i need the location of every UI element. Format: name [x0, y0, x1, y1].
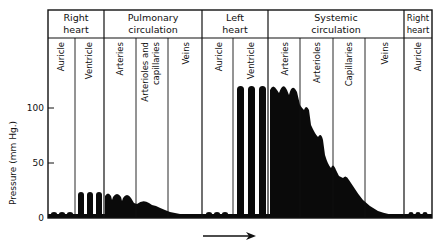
- flow-arrow-icon: [203, 232, 256, 240]
- segment-label-pulmonary-arteries: Arteries: [115, 41, 125, 75]
- segment-label-systemic-arteries: Arteries: [280, 41, 290, 75]
- y-tick-50: 50: [33, 158, 45, 168]
- blood-pressure-chart: Pressure (mm Hg.) 100 50 0: [0, 0, 444, 250]
- group-label-right-heart-end: Right: [407, 13, 430, 23]
- segment-label-left-auricle: Auricle: [214, 42, 224, 71]
- group-label-right-heart: Right: [63, 12, 88, 23]
- group-label-right-heart-2: heart: [63, 24, 89, 35]
- group-label-left-heart: Left: [226, 12, 244, 23]
- segment-label-right-auricle: Auricle: [56, 42, 66, 71]
- y-axis: 100 50 0: [27, 103, 54, 223]
- group-label-pulmonary: Pulmonary: [128, 12, 179, 23]
- segment-label-pulmonary-veins: Veins: [181, 41, 191, 64]
- segment-label-pulmonary-arterioles: Arterioles and: [140, 42, 150, 102]
- segment-label-systemic-arterioles: Arterioles: [312, 41, 322, 83]
- y-axis-label: Pressure (mm Hg.): [8, 121, 18, 205]
- y-tick-0: 0: [38, 213, 44, 223]
- segment-label-pulmonary-capillaries: capillaries: [151, 41, 161, 85]
- segment-label-right-ventricle: Ventricle: [84, 42, 94, 79]
- pressure-waveform: [48, 86, 432, 218]
- group-label-pulmonary-2: circulation: [128, 24, 177, 35]
- group-label-systemic-2: circulation: [311, 24, 360, 35]
- segment-label-systemic-veins: Veins: [380, 41, 390, 64]
- group-label-left-heart-2: heart: [222, 24, 248, 35]
- y-tick-100: 100: [27, 103, 44, 113]
- segment-label-left-ventricle: Ventricle: [246, 42, 256, 79]
- segment-label-systemic-capillaries: Capillaries: [344, 41, 354, 86]
- group-headers: Right heart Pulmonary circulation Left h…: [63, 12, 430, 35]
- group-label-systemic: Systemic: [314, 12, 357, 23]
- group-label-right-heart-end-2: heart: [407, 25, 430, 35]
- segment-label-right-auricle-end: Auricle: [413, 42, 423, 71]
